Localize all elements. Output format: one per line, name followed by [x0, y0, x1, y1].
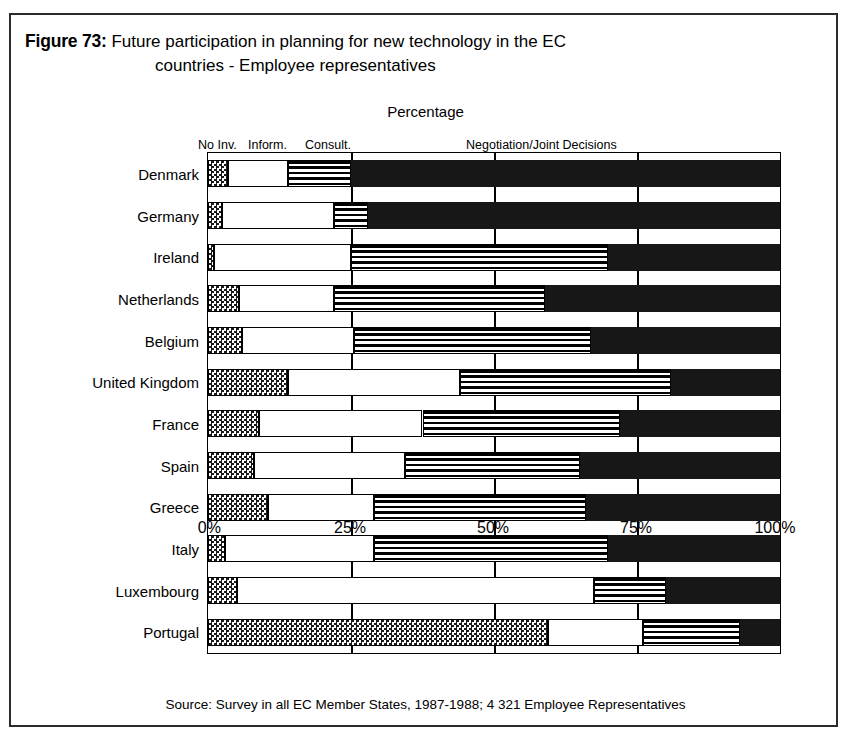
bar-segment-negotiation-joint-decisions	[545, 285, 780, 312]
bar-segment-negotiation-joint-decisions	[608, 535, 780, 562]
category-label-france: France	[152, 415, 199, 432]
bar-segment-negotiation-joint-decisions	[351, 160, 780, 187]
bar-segment-negotiation-joint-decisions	[580, 452, 780, 479]
bar-segment-consult	[374, 535, 609, 562]
bar-segment-consult	[460, 369, 672, 396]
bar-row: Ireland	[208, 244, 780, 271]
bar-segment-inform	[228, 160, 288, 187]
bar-segment-no-inv	[208, 494, 268, 521]
category-label-united-kingdom: United Kingdom	[92, 374, 199, 391]
bar-row: Denmark	[208, 160, 780, 187]
bar-segment-negotiation-joint-decisions	[666, 577, 780, 604]
bar-segment-consult	[354, 327, 591, 354]
bar-segment-no-inv	[208, 577, 237, 604]
bar-segment-inform	[239, 285, 333, 312]
bar-segment-consult	[334, 202, 368, 229]
bar-segment-consult	[351, 244, 608, 271]
legend-label-negotiation: Negotiation/Joint Decisions	[466, 138, 617, 152]
bar-segment-negotiation-joint-decisions	[586, 494, 780, 521]
x-tick-0: 0%	[198, 519, 221, 537]
bar-row: Spain	[208, 452, 780, 479]
bar-segment-inform	[548, 619, 642, 646]
category-label-belgium: Belgium	[145, 332, 199, 349]
bar-segment-no-inv	[208, 619, 548, 646]
category-label-portugal: Portugal	[143, 624, 199, 641]
bar-segment-negotiation-joint-decisions	[740, 619, 780, 646]
bar-segment-negotiation-joint-decisions	[620, 410, 780, 437]
bar-row: Luxembourg	[208, 577, 780, 604]
bar-segment-negotiation-joint-decisions	[608, 244, 780, 271]
title-line-1: Figure 73: Future participation in plann…	[25, 29, 815, 54]
bar-row: Italy	[208, 535, 780, 562]
bar-segment-no-inv	[208, 452, 254, 479]
bar-group: DenmarkGermanyIrelandNetherlandsBelgiumU…	[208, 153, 780, 653]
category-label-denmark: Denmark	[138, 165, 199, 182]
bar-segment-consult	[288, 160, 351, 187]
bar-row: Belgium	[208, 327, 780, 354]
bar-segment-consult	[594, 577, 666, 604]
bar-segment-negotiation-joint-decisions	[368, 202, 780, 229]
bar-segment-no-inv	[208, 535, 225, 562]
category-label-ireland: Ireland	[153, 249, 199, 266]
bar-segment-inform	[225, 535, 374, 562]
x-tick-25: 25%	[334, 519, 366, 537]
bar-segment-no-inv	[208, 410, 259, 437]
bar-segment-inform	[259, 410, 422, 437]
bar-segment-no-inv	[208, 327, 242, 354]
bar-segment-negotiation-joint-decisions	[591, 327, 780, 354]
bar-segment-no-inv	[208, 160, 228, 187]
figure-title-part2: countries - Employee representatives	[155, 56, 436, 75]
source-note: Source: Survey in all EC Member States, …	[11, 697, 840, 712]
bar-row: Germany	[208, 202, 780, 229]
bar-segment-no-inv	[208, 369, 288, 396]
category-label-greece: Greece	[150, 499, 199, 516]
category-label-germany: Germany	[137, 207, 199, 224]
bar-row: France	[208, 410, 780, 437]
bar-row: United Kingdom	[208, 369, 780, 396]
x-tick-100: 100%	[754, 519, 795, 537]
figure-number: Figure 73:	[25, 31, 107, 51]
category-label-netherlands: Netherlands	[118, 290, 199, 307]
category-label-luxembourg: Luxembourg	[116, 582, 199, 599]
legend-label-inform: Inform.	[248, 138, 287, 152]
legend-label-consult: Consult.	[305, 138, 351, 152]
title-line-2: countries - Employee representatives	[25, 54, 815, 78]
bar-segment-no-inv	[208, 202, 222, 229]
bar-segment-consult	[374, 494, 586, 521]
axis-caption: Percentage	[11, 103, 840, 120]
bar-segment-consult	[405, 452, 579, 479]
bar-segment-consult	[423, 410, 620, 437]
plot-area: DenmarkGermanyIrelandNetherlandsBelgiumU…	[207, 152, 781, 654]
category-label-spain: Spain	[161, 457, 199, 474]
figure-title-part1: Future participation in planning for new…	[111, 32, 566, 51]
bar-segment-inform	[268, 494, 374, 521]
bar-segment-inform	[288, 369, 460, 396]
x-tick-75: 75%	[620, 519, 652, 537]
bar-segment-consult	[643, 619, 740, 646]
bar-segment-negotiation-joint-decisions	[671, 369, 780, 396]
x-tick-50: 50%	[477, 519, 509, 537]
bar-segment-inform	[242, 327, 354, 354]
bar-segment-no-inv	[208, 244, 214, 271]
bar-segment-inform	[214, 244, 351, 271]
bar-segment-inform	[254, 452, 406, 479]
legend-label-no-inv: No Inv.	[198, 138, 237, 152]
bar-row: Portugal	[208, 619, 780, 646]
figure-title-block: Figure 73: Future participation in plann…	[25, 29, 815, 78]
bar-row: Greece	[208, 494, 780, 521]
bar-segment-no-inv	[208, 285, 239, 312]
bar-segment-consult	[334, 285, 546, 312]
bar-segment-inform	[222, 202, 334, 229]
bar-row: Netherlands	[208, 285, 780, 312]
figure-frame: Figure 73: Future participation in plann…	[9, 13, 838, 727]
bar-segment-inform	[237, 577, 595, 604]
